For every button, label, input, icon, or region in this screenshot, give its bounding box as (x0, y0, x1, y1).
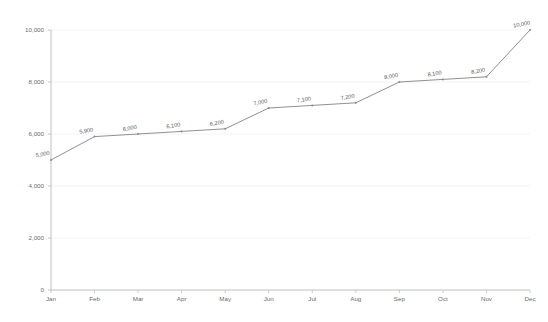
x-tick-label: Nov (481, 295, 493, 302)
x-tick-label: Oct (438, 295, 448, 302)
x-tick-label: Jan (46, 295, 57, 302)
x-tick-label: Sep (394, 295, 406, 302)
data-point (50, 159, 52, 161)
y-tick-label: 0 (41, 286, 45, 293)
data-point (181, 130, 183, 132)
x-tick-label: Dec (524, 295, 535, 302)
data-point (94, 136, 96, 138)
chart-canvas: 02,0004,0006,0008,00010,000 JanFebMarApr… (0, 0, 548, 322)
x-tick-label: Aug (350, 295, 362, 302)
x-tick-label: Apr (177, 295, 187, 302)
data-point (137, 133, 139, 135)
y-tick-label: 10,000 (25, 26, 44, 33)
x-tick-label: May (219, 295, 232, 302)
data-point (311, 104, 313, 106)
data-point (398, 81, 400, 83)
line-chart: 02,0004,0006,0008,00010,000 JanFebMarApr… (0, 0, 548, 322)
data-point (485, 76, 487, 78)
x-tick-label: Jul (308, 295, 316, 302)
x-tick-label: Mar (133, 295, 144, 302)
y-tick-label: 4,000 (29, 182, 45, 189)
data-point (355, 102, 357, 104)
chart-background (0, 0, 548, 322)
data-point (442, 78, 444, 80)
x-tick-label: Jun (264, 295, 275, 302)
x-tick-label: Feb (89, 295, 100, 302)
y-tick-label: 8,000 (29, 78, 45, 85)
data-point (529, 29, 531, 31)
y-tick-label: 2,000 (29, 234, 45, 241)
data-point (268, 107, 270, 109)
data-point (224, 128, 226, 130)
y-tick-label: 6,000 (29, 130, 45, 137)
